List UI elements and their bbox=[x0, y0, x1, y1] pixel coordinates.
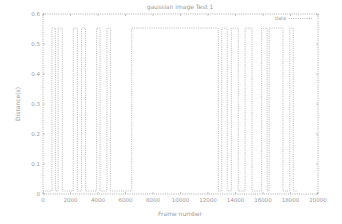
data-series bbox=[43, 28, 297, 191]
x-tick-label: 18000 bbox=[282, 197, 300, 203]
y-tick-label: 0.5 bbox=[31, 41, 40, 47]
y-tick-label: 0.6 bbox=[31, 11, 40, 17]
plot-frame bbox=[43, 14, 318, 194]
y-axis-label: Distance(s) bbox=[14, 87, 21, 121]
plot-border bbox=[43, 14, 318, 194]
x-tick-label: 10000 bbox=[172, 197, 190, 203]
y-tick-label: 0.3 bbox=[31, 101, 40, 107]
x-tick-label: 6000 bbox=[119, 197, 133, 203]
y-tick-label: 0.1 bbox=[31, 161, 40, 167]
x-tick-label: 20000 bbox=[309, 197, 327, 203]
legend: data bbox=[275, 15, 312, 21]
chart-container: gaussian image Test 1 020004000600080001… bbox=[0, 0, 342, 224]
x-tick-label: 4000 bbox=[91, 197, 105, 203]
y-tick-label: 0.2 bbox=[31, 131, 40, 137]
x-tick-label: 8000 bbox=[146, 197, 160, 203]
y-tick-label: 0 bbox=[37, 191, 41, 197]
chart-svg: gaussian image Test 1 020004000600080001… bbox=[0, 0, 342, 224]
y-tick-label: 0.4 bbox=[31, 71, 40, 77]
x-tick-label: 16000 bbox=[254, 197, 272, 203]
x-tick-label: 2000 bbox=[64, 197, 78, 203]
x-tick-label: 12000 bbox=[199, 197, 217, 203]
legend-label: data bbox=[275, 15, 286, 21]
x-tick-label: 0 bbox=[41, 197, 45, 203]
x-tick-label: 14000 bbox=[227, 197, 245, 203]
series-line bbox=[43, 28, 297, 191]
y-axis-ticks: 00.10.20.30.40.50.6 bbox=[31, 11, 318, 197]
x-axis-label: Frame number bbox=[158, 210, 203, 217]
chart-title: gaussian image Test 1 bbox=[147, 3, 214, 11]
x-axis-ticks: 0200040006000800010000120001400016000180… bbox=[41, 14, 327, 203]
